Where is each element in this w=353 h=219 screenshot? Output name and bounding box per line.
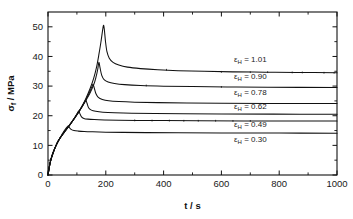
y-axis-unit: / MPa (5, 75, 16, 103)
epsilon-value: = 0.78 (242, 88, 267, 97)
y-tick-label: 50 (32, 21, 43, 32)
x-tick-label: 1000 (326, 178, 347, 189)
x-tick-label: 400 (156, 178, 172, 189)
x-tick-label: 800 (271, 178, 287, 189)
epsilon-value: = 0.62 (242, 102, 267, 111)
epsilon-value: = 0.49 (242, 120, 267, 129)
x-tick-label: 600 (213, 178, 229, 189)
y-tick-label: 30 (32, 80, 43, 91)
epsilon-value: = 0.90 (242, 72, 267, 81)
x-axis-title: t / s (184, 200, 200, 211)
y-axis-title: σf / MPa (5, 75, 17, 112)
y-tick-label: 20 (32, 110, 43, 121)
epsilon-value: = 0.30 (242, 135, 267, 144)
x-tick-label: 0 (45, 178, 50, 189)
y-tick-label: 40 (32, 51, 43, 62)
x-tick-label: 200 (98, 178, 114, 189)
chart-background (0, 0, 353, 219)
y-tick-label: 10 (32, 140, 43, 151)
y-tick-label: 0 (38, 169, 43, 180)
stress-relaxation-chart: 0200400600800100001020304050 εH = 1.01εH… (0, 0, 353, 219)
chart-figure: 0200400600800100001020304050 εH = 1.01εH… (0, 0, 353, 219)
epsilon-value: = 1.01 (242, 55, 267, 64)
